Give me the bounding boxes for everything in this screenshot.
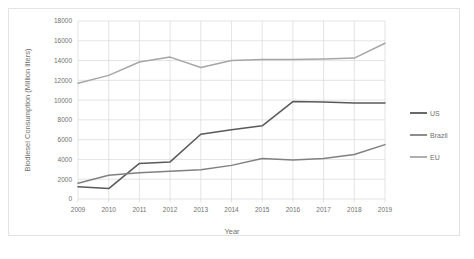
y-axis-title: Biodiesel Consumption (Million liters) bbox=[23, 48, 32, 171]
biodiesel-consumption-line-chart: 0200040006000800010000120001400016000180… bbox=[0, 0, 474, 259]
x-tick-label: 2017 bbox=[316, 206, 331, 213]
y-tick-label: 6000 bbox=[58, 136, 73, 143]
x-tick-label: 2011 bbox=[132, 206, 146, 213]
y-tick-label: 12000 bbox=[54, 77, 72, 84]
y-tick-label: 18000 bbox=[54, 17, 72, 24]
x-tick-label: 2015 bbox=[255, 206, 270, 213]
legend-label-brazil: Brazil bbox=[430, 132, 448, 139]
x-axis-title: Year bbox=[224, 227, 240, 236]
x-tick-label: 2016 bbox=[286, 206, 301, 213]
x-tick-label: 2010 bbox=[101, 206, 116, 213]
vertical-gridlines bbox=[78, 21, 385, 199]
x-tick-label: 2014 bbox=[224, 206, 239, 213]
legend-label-us: US bbox=[430, 110, 440, 117]
y-tick-label: 0 bbox=[68, 195, 72, 202]
y-tick-label: 16000 bbox=[54, 37, 72, 44]
y-tick-label: 2000 bbox=[58, 176, 73, 183]
x-axis-tick-labels: 2009201020112012201320142015201620172018… bbox=[71, 206, 393, 213]
x-tick-label: 2018 bbox=[347, 206, 362, 213]
x-tick-label: 2012 bbox=[163, 206, 178, 213]
y-tick-label: 4000 bbox=[58, 156, 73, 163]
x-tick-label: 2013 bbox=[194, 206, 209, 213]
y-tick-label: 14000 bbox=[54, 57, 72, 64]
chart-legend: USBrazilEU bbox=[410, 110, 448, 161]
x-tick-label: 2019 bbox=[378, 206, 393, 213]
y-tick-label: 10000 bbox=[54, 97, 72, 104]
y-tick-label: 8000 bbox=[58, 116, 73, 123]
x-axis-tick-marks bbox=[78, 199, 385, 203]
legend-label-eu: EU bbox=[430, 154, 440, 161]
y-axis-tick-labels: 0200040006000800010000120001400016000180… bbox=[54, 17, 72, 202]
x-tick-label: 2009 bbox=[71, 206, 86, 213]
